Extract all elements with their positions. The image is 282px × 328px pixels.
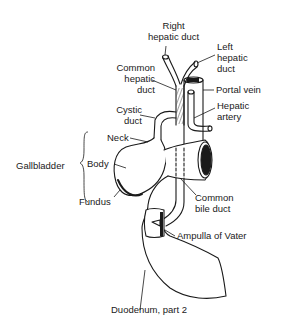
label-line: hepatic <box>111 73 155 84</box>
right-hepatic-duct <box>163 58 176 86</box>
label-common-bile-duct: Common bile duct <box>195 192 234 214</box>
label-ampulla-of-vater: Ampulla of Vater <box>177 230 247 241</box>
label-line: Hepatic <box>217 100 249 111</box>
label-line: Common <box>195 192 234 203</box>
label-cystic-duct: Cystic duct <box>112 104 142 126</box>
label-line: duct <box>111 84 155 95</box>
label-left-hepatic-duct: Left hepatic duct <box>217 41 248 74</box>
label-right-hepatic-duct: Right hepatic duct <box>148 20 199 42</box>
label-gallbladder: Gallbladder <box>16 160 65 171</box>
label-line: hepatic <box>217 52 248 63</box>
label-line: duct <box>217 63 248 74</box>
label-body: Body <box>87 158 109 169</box>
label-line: duct <box>112 115 142 126</box>
label-line: artery <box>217 111 249 122</box>
label-line: bile duct <box>195 203 234 214</box>
label-line: Common <box>111 62 155 73</box>
label-duodenum-part-2: Duodenum, part 2 <box>111 304 187 315</box>
label-common-hepatic-duct: Common hepatic duct <box>111 62 155 95</box>
label-portal-vein: Portal vein <box>216 84 261 95</box>
label-line: Right <box>148 20 199 31</box>
label-neck: Neck <box>107 132 129 143</box>
label-line: hepatic duct <box>148 31 199 42</box>
label-hepatic-artery: Hepatic artery <box>217 100 249 122</box>
label-line: Left <box>217 41 248 52</box>
label-fundus: Fundus <box>79 196 111 207</box>
cystic-duct <box>154 111 176 138</box>
label-line: Cystic <box>112 104 142 115</box>
